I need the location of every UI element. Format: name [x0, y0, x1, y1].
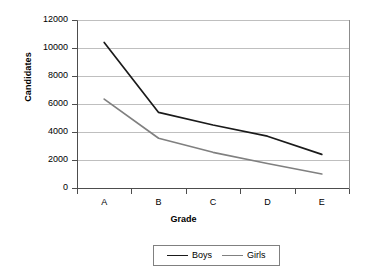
- legend-swatch-boys: [167, 255, 188, 256]
- gridline: [78, 76, 349, 77]
- gridline: [78, 104, 349, 105]
- legend-label: Girls: [247, 251, 266, 260]
- y-tick-mark: [72, 76, 77, 77]
- y-tick-label: 8000: [12, 71, 68, 80]
- x-tick-label: E: [307, 197, 337, 207]
- x-axis-title: Grade: [0, 214, 367, 224]
- x-tick-mark: [295, 189, 296, 194]
- y-tick-label: 6000: [12, 99, 68, 108]
- y-tick-mark: [72, 104, 77, 105]
- y-tick-mark: [72, 48, 77, 49]
- x-tick-mark: [240, 189, 241, 194]
- x-tick-mark: [186, 189, 187, 194]
- x-tick-mark: [77, 189, 78, 194]
- x-tick-label: B: [144, 197, 174, 207]
- x-tick-mark: [131, 189, 132, 194]
- y-tick-mark: [72, 132, 77, 133]
- chart-legend: BoysGirls: [153, 245, 280, 266]
- y-tick-mark: [72, 20, 77, 21]
- gridline: [78, 160, 349, 161]
- x-tick-mark: [349, 189, 350, 194]
- y-tick-mark: [72, 160, 77, 161]
- x-tick-label: D: [252, 197, 282, 207]
- gridline: [78, 48, 349, 49]
- plot-right-border: [349, 20, 350, 189]
- gridline: [78, 20, 349, 21]
- legend-entry-boys: Boys: [167, 251, 212, 260]
- y-tick-label: 10000: [12, 43, 68, 52]
- line-chart: Candidates 020004000600080001000012000 A…: [0, 0, 367, 277]
- y-tick-label: 0: [12, 183, 68, 192]
- legend-entry-girls: Girls: [222, 251, 266, 260]
- x-tick-label: C: [198, 197, 228, 207]
- y-tick-label: 2000: [12, 155, 68, 164]
- x-axis-line: [77, 188, 350, 189]
- legend-label: Boys: [192, 251, 212, 260]
- x-tick-label: A: [89, 197, 119, 207]
- gridline: [78, 132, 349, 133]
- y-tick-label: 12000: [12, 15, 68, 24]
- y-tick-label: 4000: [12, 127, 68, 136]
- legend-swatch-girls: [222, 255, 243, 256]
